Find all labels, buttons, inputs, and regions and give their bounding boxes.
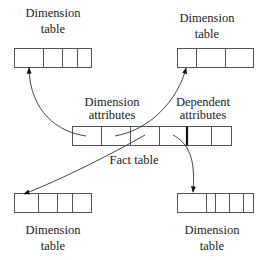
dependent-attributes-label-line1: Dependent [176,95,231,109]
top-left-label-line1: Dimension [26,6,82,20]
top-right-label-line2: table [195,27,220,41]
dimension-table-bottom-left: Dimension table [15,194,92,254]
star-schema-diagram: Dimension table Dimension table Dimensio… [0,0,268,260]
top-left-label-line2: table [41,22,66,36]
dependent-attributes-label-line2: attributes [180,108,227,122]
bottom-left-label-line2: table [41,239,66,253]
dimension-table-top-left: Dimension table [15,6,92,68]
dimension-table-bottom-right: Dimension table [178,194,254,254]
fact-table: Dimension attributes Dependent attribute… [73,95,232,167]
dimension-attributes-label-line2: attributes [89,108,136,122]
bottom-right-label-line1: Dimension [185,223,241,237]
fact-table-label: Fact table [110,153,159,167]
dimension-table-top-right: Dimension table [178,11,254,68]
bottom-left-label-line1: Dimension [26,223,82,237]
top-right-label-line1: Dimension [180,11,236,25]
arrow-to-top-left-table [29,68,86,136]
dimension-attributes-label-line1: Dimension [85,95,141,109]
bottom-right-label-line2: table [200,239,225,253]
